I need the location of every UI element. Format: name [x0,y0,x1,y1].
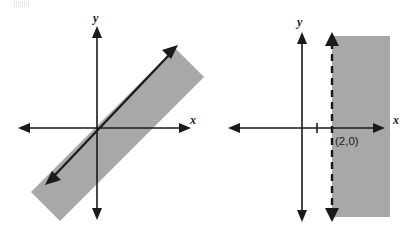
y-axis-arrow-up [297,32,307,44]
y-axis-arrow-up [92,26,102,38]
right-graph: x y (2,0) [205,0,409,237]
left-y-axis-label: y [91,11,99,25]
right-x-axis-label: x [392,113,399,127]
y-axis-arrow-down [297,210,307,222]
intercept-point-label: (2,0) [335,135,359,147]
x-axis-arrow-left [18,123,30,133]
figure-container: x y [0,0,409,237]
shaded-band-region [31,48,204,221]
left-graph: x y [0,0,205,237]
y-axis-arrow-down [92,208,102,220]
right-y-axis-label: y [295,15,303,29]
left-x-axis-label: x [189,113,196,127]
x-axis-arrow-left [228,123,240,133]
y-axis [297,32,307,222]
